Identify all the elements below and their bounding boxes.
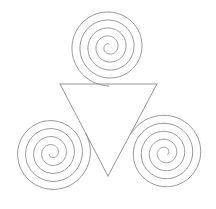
figure-canvas	[0, 0, 216, 209]
bottom-left-spiral	[18, 121, 91, 190]
top-spiral	[72, 12, 142, 86]
spiral-triangle-drawing	[0, 0, 216, 209]
spirals-group	[18, 12, 201, 189]
triangle-edge-right	[108, 84, 157, 176]
triangle-edge-bottom	[60, 84, 108, 176]
bottom-right-spiral	[131, 115, 200, 186]
